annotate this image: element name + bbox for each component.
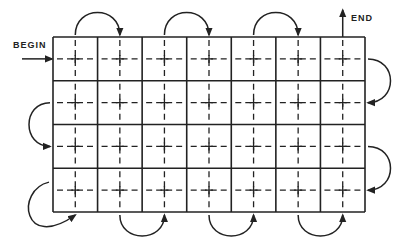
path-arrows <box>22 10 391 236</box>
end-label: END <box>351 13 373 23</box>
serpentine-grid-diagram <box>0 0 402 244</box>
begin-label: BEGIN <box>13 40 47 50</box>
